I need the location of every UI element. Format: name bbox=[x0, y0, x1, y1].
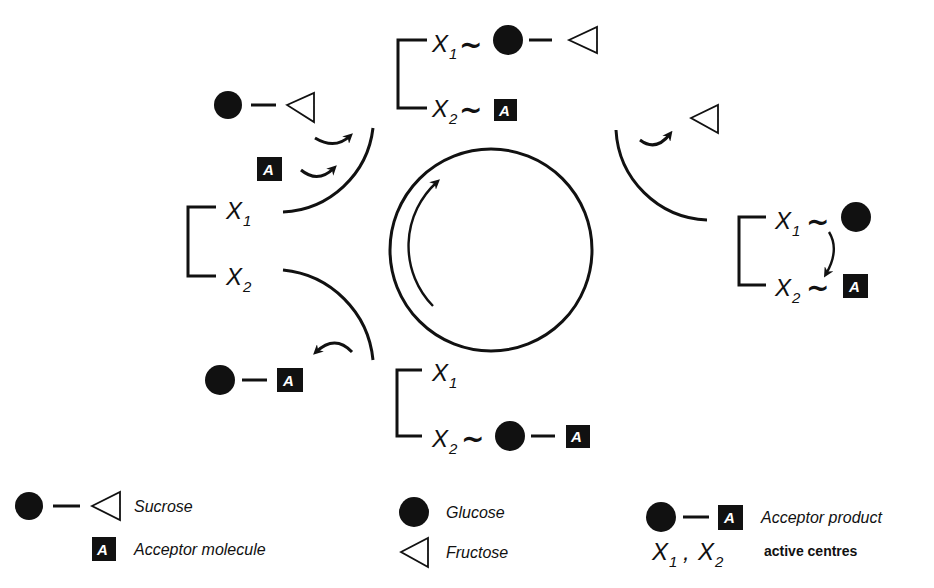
acceptor-icon: A bbox=[257, 157, 282, 181]
acceptor-icon: A bbox=[92, 537, 116, 561]
legend-acceptor-molecule-label: Acceptor molecule bbox=[133, 541, 266, 558]
left-enzyme: X 1 X 2 bbox=[188, 197, 252, 295]
legend-acceptor-product: A Acceptor product bbox=[646, 502, 883, 532]
svg-text:X: X bbox=[774, 274, 792, 301]
arc-lower-left bbox=[283, 270, 373, 360]
bond-tilde: ~ bbox=[459, 28, 482, 61]
legend-fructose: Fructose bbox=[401, 538, 508, 567]
svg-text:A: A bbox=[282, 372, 294, 389]
cycle-direction-arrow bbox=[409, 182, 437, 306]
svg-text:X: X bbox=[225, 197, 243, 224]
fructose-icon bbox=[691, 105, 718, 133]
legend-fructose-label: Fructose bbox=[446, 544, 508, 561]
sucrose-cycle-diagram: X 1 ~ X 2 ~ A A X 1 X 2 bbox=[0, 0, 934, 588]
acceptor-icon: A bbox=[718, 505, 743, 530]
legend-active-centres: X 1 , X 2 active centres bbox=[651, 538, 858, 570]
top-complex: X 1 ~ X 2 ~ A bbox=[398, 25, 597, 127]
svg-text:A: A bbox=[96, 541, 108, 558]
legend-acceptor-product-label: Acceptor product bbox=[760, 509, 883, 526]
glucose-icon bbox=[15, 492, 43, 520]
glucose-icon bbox=[214, 91, 242, 119]
svg-text:2: 2 bbox=[448, 110, 458, 127]
svg-text:~: ~ bbox=[806, 205, 829, 238]
legend: Sucrose A Acceptor molecule Glucose Fruc… bbox=[15, 492, 883, 570]
fructose-icon bbox=[92, 492, 120, 520]
svg-text:1: 1 bbox=[792, 222, 800, 239]
output-fructose bbox=[640, 105, 718, 145]
glucose-icon bbox=[399, 497, 429, 527]
svg-text:A: A bbox=[570, 428, 582, 445]
fructose-icon bbox=[401, 538, 428, 567]
enzyme-bracket bbox=[398, 40, 427, 108]
glucose-icon bbox=[493, 25, 523, 55]
svg-text:X: X bbox=[225, 263, 243, 290]
arc-upper-left bbox=[283, 128, 373, 212]
svg-text:A: A bbox=[498, 102, 510, 119]
enzyme-bracket bbox=[188, 207, 216, 276]
bottom-complex: X 1 X 2 ~ A bbox=[397, 359, 590, 457]
svg-text:1: 1 bbox=[669, 553, 677, 570]
glucose-icon bbox=[646, 502, 676, 532]
acceptor-icon: A bbox=[566, 425, 590, 448]
svg-text:1: 1 bbox=[243, 212, 251, 229]
acceptor-icon: A bbox=[843, 274, 868, 298]
fructose-icon bbox=[569, 27, 597, 53]
cycle-circle bbox=[390, 149, 592, 351]
legend-glucose-label: Glucose bbox=[446, 504, 505, 521]
legend-acceptor-molecule: A Acceptor molecule bbox=[92, 537, 266, 561]
svg-text:A: A bbox=[262, 161, 274, 178]
acceptor-icon: A bbox=[494, 99, 517, 121]
input-sucrose bbox=[214, 91, 350, 144]
uptake-arrow bbox=[315, 136, 350, 144]
svg-text:X: X bbox=[697, 538, 715, 565]
release-arrow bbox=[640, 134, 670, 145]
legend-sucrose-label: Sucrose bbox=[134, 498, 193, 515]
active-centre-x2-label: X bbox=[431, 95, 449, 122]
svg-text:~: ~ bbox=[459, 93, 482, 126]
enzyme-bracket bbox=[397, 370, 422, 436]
release-arrow bbox=[316, 343, 352, 352]
central-cycle bbox=[390, 149, 592, 351]
transfer-arrow bbox=[826, 232, 834, 274]
svg-text:2: 2 bbox=[714, 553, 724, 570]
enzyme-bracket bbox=[739, 217, 766, 285]
legend-glucose: Glucose bbox=[399, 497, 505, 527]
svg-text:2: 2 bbox=[448, 440, 458, 457]
glucose-icon bbox=[205, 365, 235, 395]
svg-text:1: 1 bbox=[449, 45, 457, 62]
svg-text:A: A bbox=[723, 509, 735, 526]
right-complex: X 1 ~ X 2 ~ A bbox=[739, 202, 871, 306]
glucose-icon bbox=[495, 421, 525, 451]
svg-text:X: X bbox=[431, 425, 449, 452]
svg-text:X: X bbox=[774, 207, 792, 234]
svg-text:,: , bbox=[683, 538, 690, 565]
output-acceptor-product: A bbox=[205, 343, 352, 395]
svg-text:~: ~ bbox=[806, 271, 829, 304]
svg-text:~: ~ bbox=[461, 422, 484, 455]
svg-text:1: 1 bbox=[449, 374, 457, 391]
glucose-icon bbox=[841, 202, 871, 232]
legend-sucrose: Sucrose bbox=[15, 492, 193, 520]
svg-text:2: 2 bbox=[242, 278, 252, 295]
fructose-icon bbox=[287, 93, 314, 122]
svg-text:A: A bbox=[848, 278, 860, 295]
active-centre-x1-label: X bbox=[431, 30, 449, 57]
svg-text:X: X bbox=[651, 538, 669, 565]
uptake-arrow bbox=[301, 168, 334, 177]
legend-active-centres-label: active centres bbox=[764, 543, 858, 559]
svg-text:X: X bbox=[431, 359, 449, 386]
acceptor-icon: A bbox=[277, 368, 303, 392]
svg-text:2: 2 bbox=[791, 289, 801, 306]
input-acceptor: A bbox=[257, 157, 334, 181]
